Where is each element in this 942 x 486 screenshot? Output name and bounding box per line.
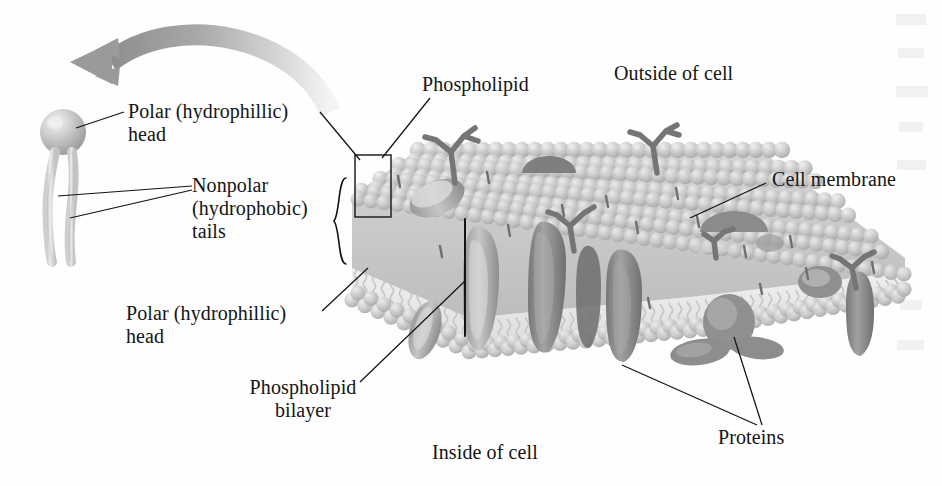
label-phospholipid: Phospholipid [422, 73, 529, 96]
label-polar-head-bottom: Polar (hydrophillic) head [126, 302, 286, 348]
label-inside-of-cell: Inside of cell [432, 441, 538, 464]
cell-membrane-diagram: Polar (hydrophillic) head Nonpolar (hydr… [0, 0, 942, 486]
label-polar-head-top: Polar (hydrophillic) head [128, 100, 288, 146]
label-phospholipid-bilayer: Phospholipid bilayer [238, 376, 368, 422]
curly-brace-icon [334, 178, 346, 264]
label-outside-of-cell: Outside of cell [614, 62, 733, 85]
label-proteins: Proteins [718, 426, 784, 449]
label-cell-membrane: Cell membrane [772, 168, 896, 191]
label-nonpolar-tails: Nonpolar (hydrophobic) tails [192, 174, 308, 243]
phospholipid-molecule-icon [40, 109, 86, 262]
